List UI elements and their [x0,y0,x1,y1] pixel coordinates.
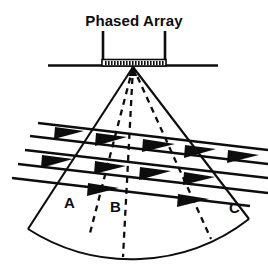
beam-label-c: C [229,199,240,216]
diagram-canvas: Phased Array [0,0,268,274]
flow-line-3a [12,178,250,206]
flow-arrow-9 [183,172,215,185]
page-title: Phased Array [85,12,183,29]
beam-label-a: A [64,194,75,211]
flow-arrow-2 [95,133,127,146]
phased-array-diagram: Phased Array [0,0,268,274]
sector-bottom-arc [28,219,249,259]
flow-arrow-8 [139,167,171,180]
beam-label-b: B [110,198,121,215]
flow-arrow-7 [94,161,126,174]
